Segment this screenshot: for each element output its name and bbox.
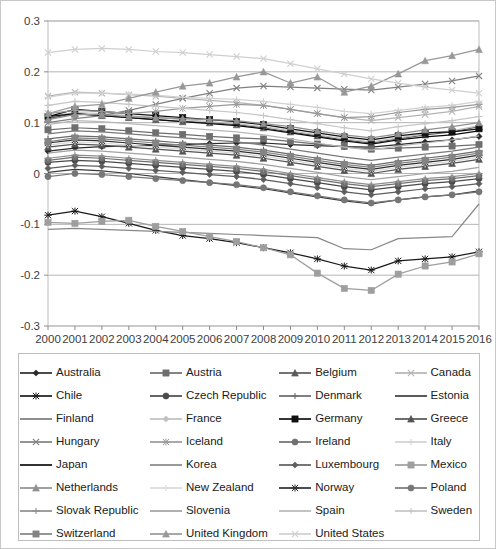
legend-key-star-icon [19,390,53,402]
legend-key-plus-icon [394,505,428,517]
legend-cell: Norway [278,476,393,499]
xtick-label: 2012 [358,333,384,345]
legend-item-slovak-republic[interactable]: Slovak Republic [19,505,149,517]
legend-item-new-zealand[interactable]: New Zealand [149,482,278,494]
legend-item-australia[interactable]: Australia [19,367,149,379]
marker-star [314,110,321,117]
chart-legend: AustraliaAustriaBelgiumCanadaChileCzech … [18,353,480,541]
legend-item-label: Iceland [186,436,223,448]
marker-square [341,161,347,167]
marker-square [72,125,78,131]
legend-item-italy[interactable]: Italy [394,436,479,448]
marker-circle [126,173,132,179]
legend-cell: Poland [394,476,479,499]
legend-item-denmark[interactable]: Denmark [278,390,393,402]
marker-square [207,233,213,239]
marker-square [476,141,482,147]
legend-key-triangle-icon [278,367,312,379]
marker-square [260,136,266,142]
legend-cell: France [149,407,278,430]
legend-item-japan[interactable]: Japan [19,459,149,471]
legend-item-norway[interactable]: Norway [278,482,393,494]
marker-square [314,157,320,163]
xtick-label: 2000 [35,333,61,345]
legend-item-austria[interactable]: Austria [149,367,278,379]
legend-item-label: France [186,413,222,425]
legend-item-switzerland[interactable]: Switzerland [19,528,149,540]
legend-item-finland[interactable]: Finland [19,413,149,425]
legend-item-label: New Zealand [186,482,254,494]
legend-cell: Netherlands [19,476,149,499]
legend-item-canada[interactable]: Canada [394,367,479,379]
legend-item-netherlands[interactable]: Netherlands [19,482,149,494]
xtick-label: 2001 [62,333,88,345]
marker-square [422,157,428,163]
marker-square [260,245,266,251]
marker-plus [407,507,414,513]
legend-item-label: Belgium [315,367,357,379]
legend-key-x-icon [278,528,312,540]
marker-square [449,259,455,265]
xtick-label: 2016 [466,333,492,345]
xtick-label: 2009 [278,333,304,345]
marker-square [233,239,239,245]
legend-item-germany[interactable]: Germany [278,413,393,425]
legend-cell: Spain [278,499,393,522]
legend-item-sweden[interactable]: Sweden [394,505,479,517]
marker-square [99,218,105,224]
marker-star [291,484,298,491]
marker-circle [153,175,159,181]
marker-circle [207,180,213,186]
marker-square [449,143,455,149]
marker-circle [476,189,482,195]
legend-cell: Iceland [149,430,278,453]
legend-item-korea[interactable]: Korea [149,459,278,471]
marker-square [476,150,482,156]
legend-item-label: Mexico [431,459,467,471]
legend-key-square-icon [149,367,183,379]
legend-item-greece[interactable]: Greece [394,413,479,425]
marker-square [153,140,159,146]
marker-star [394,257,401,264]
xtick-label: 2002 [89,333,115,345]
legend-row: FinlandFranceGermanyGreece [19,407,479,430]
marker-plus [162,484,169,490]
legend-item-france[interactable]: France [149,413,278,425]
legend-cell: United Kingdom [149,522,278,545]
legend-item-hungary[interactable]: Hungary [19,436,149,448]
marker-square [422,263,428,269]
legend-cell: Czech Republic [149,384,278,407]
marker-circle [292,438,298,444]
legend-item-slovenia[interactable]: Slovenia [149,505,278,517]
legend-item-united-states[interactable]: United States [278,528,393,540]
legend-cell: Hungary [19,430,149,453]
legend-cell: Estonia [394,384,479,407]
legend-item-ireland[interactable]: Ireland [278,436,393,448]
marker-star [341,114,348,121]
legend-item-label: Luxembourg [315,459,379,471]
legend-cell: Greece [394,407,479,430]
legend-item-united-kingdom[interactable]: United Kingdom [149,528,278,540]
legend-item-spain[interactable]: Spain [278,505,393,517]
legend-item-label: Italy [431,436,452,448]
legend-item-chile[interactable]: Chile [19,390,149,402]
legend-key-square-icon [278,413,312,425]
legend-item-belgium[interactable]: Belgium [278,367,393,379]
xtick-label: 2011 [332,333,357,345]
marker-square [233,135,239,141]
ytick-label: -0.3 [20,320,40,332]
legend-item-luxembourg[interactable]: Luxembourg [278,459,393,471]
legend-cell: Ireland [278,430,393,453]
marker-square [99,136,105,142]
legend-item-poland[interactable]: Poland [394,482,479,494]
marker-circle [407,484,413,490]
legend-cell: Switzerland [19,522,149,545]
marker-star [71,208,78,215]
legend-key-star-icon [149,436,183,448]
legend-item-label: Czech Republic [186,390,267,402]
legend-item-iceland[interactable]: Iceland [149,436,278,448]
legend-item-estonia[interactable]: Estonia [394,390,479,402]
legend-key-plus-icon [278,390,312,402]
legend-item-czech-republic[interactable]: Czech Republic [149,390,278,402]
legend-item-mexico[interactable]: Mexico [394,459,479,471]
